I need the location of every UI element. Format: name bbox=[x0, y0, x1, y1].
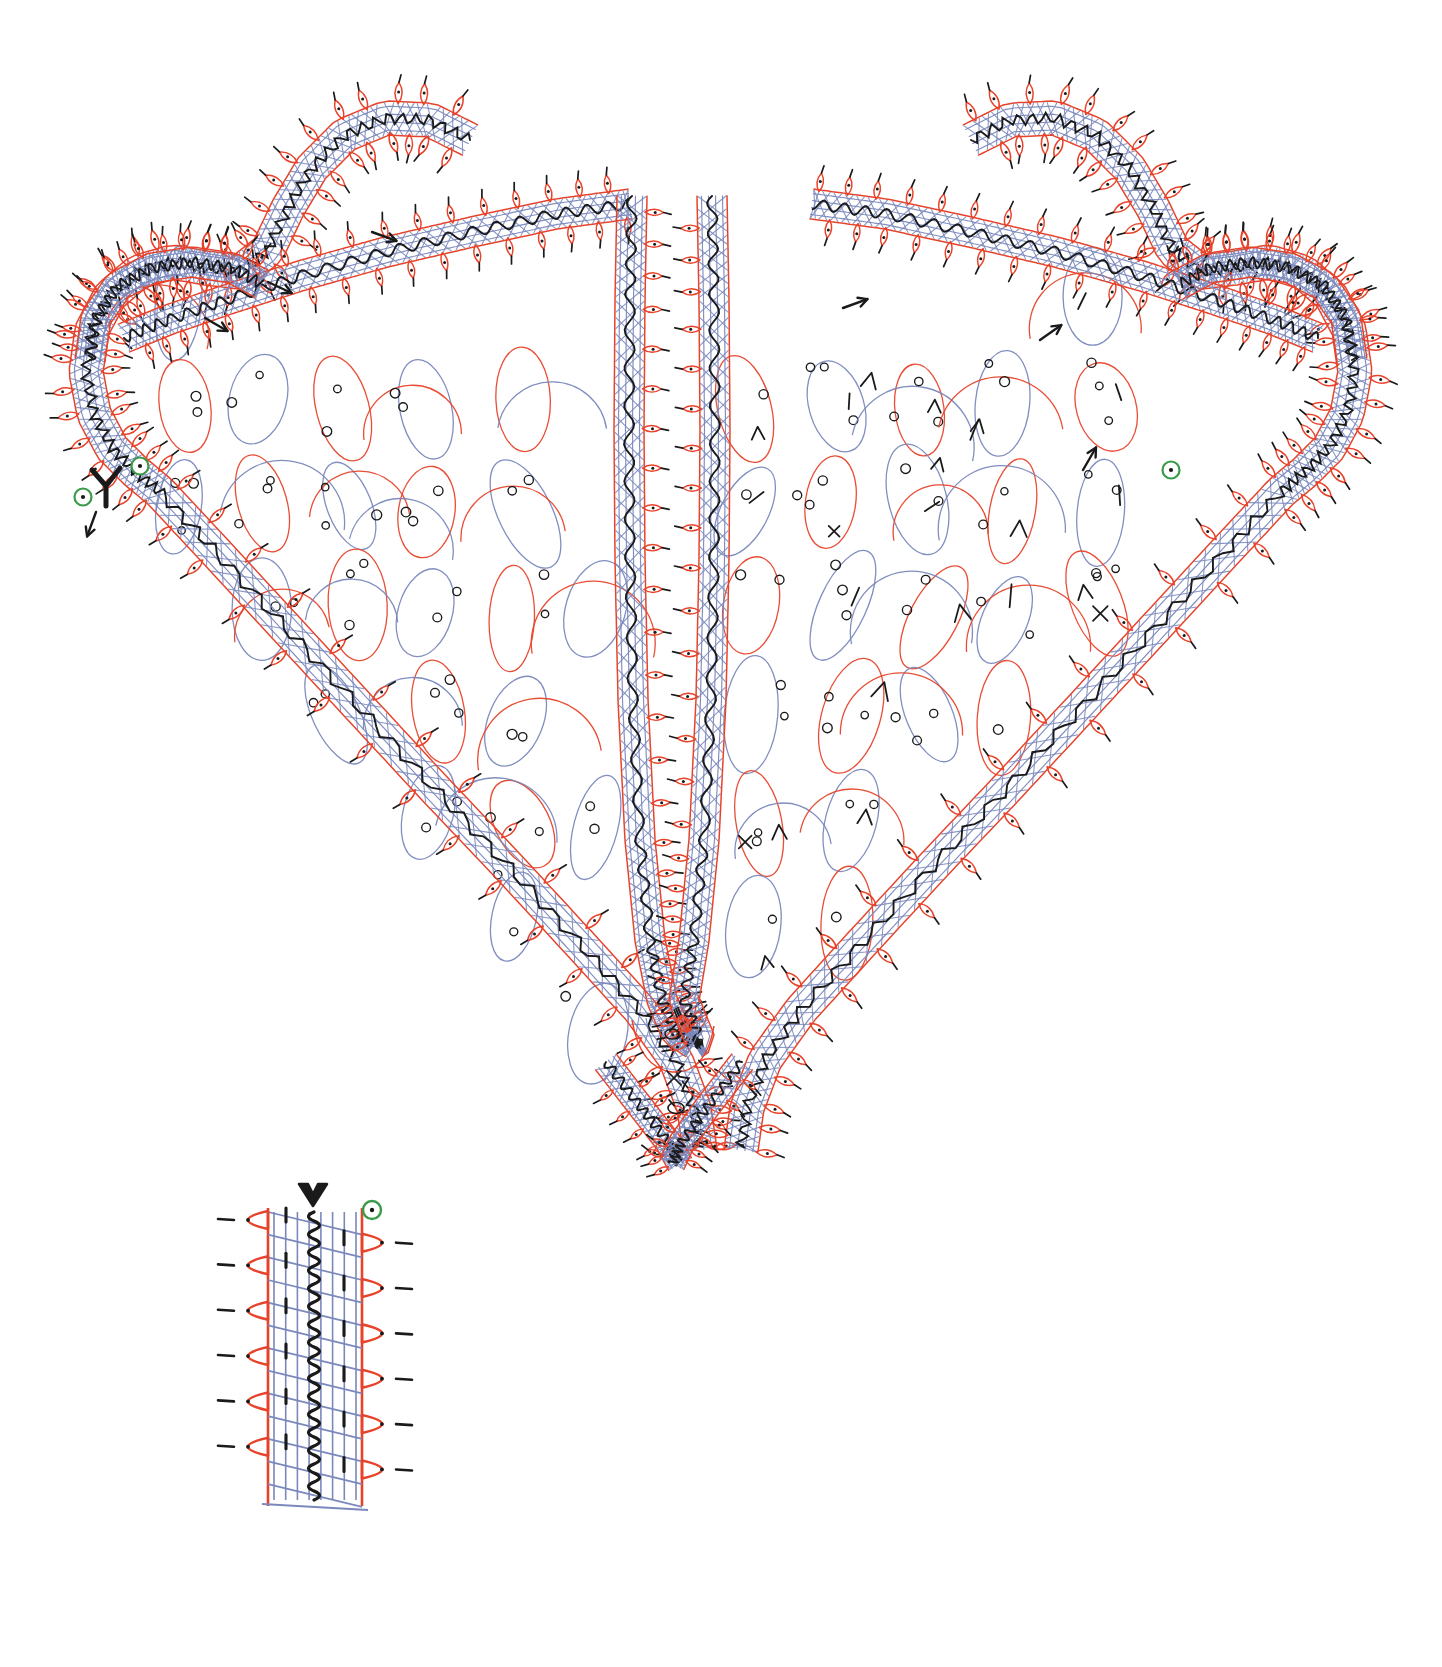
pin-dot bbox=[684, 737, 687, 740]
pin-dot bbox=[407, 144, 410, 147]
picot-tick bbox=[1223, 306, 1224, 314]
pin-dot bbox=[1268, 240, 1271, 243]
swatch-picot-tick-right bbox=[396, 1469, 412, 1470]
pin-dot bbox=[1346, 278, 1349, 281]
pin-dot bbox=[884, 955, 887, 958]
pin-dot bbox=[689, 566, 692, 569]
pin-dot bbox=[690, 368, 693, 371]
pin-dot bbox=[1159, 167, 1162, 170]
pin-dot bbox=[690, 407, 693, 410]
picot-tick bbox=[397, 153, 398, 161]
pin-dot bbox=[658, 1141, 661, 1144]
pin-dot bbox=[732, 1105, 735, 1108]
pin-dot bbox=[156, 297, 159, 300]
pin-dot bbox=[1340, 268, 1343, 271]
pin-dot bbox=[457, 103, 460, 106]
braid-crossing bbox=[630, 1024, 670, 1025]
pin-dot bbox=[607, 1013, 610, 1016]
pin-dot bbox=[671, 1033, 674, 1036]
pin-dot bbox=[180, 238, 183, 241]
picot-tick bbox=[670, 802, 678, 803]
pin-dot bbox=[629, 958, 632, 961]
pin-dot bbox=[482, 204, 485, 207]
pin-dot bbox=[1120, 206, 1123, 209]
pin-dot bbox=[1292, 516, 1295, 519]
pin-dot bbox=[1238, 496, 1241, 499]
pin-dot bbox=[1282, 348, 1285, 351]
picot-tick bbox=[1388, 345, 1396, 346]
pin-dot bbox=[179, 289, 182, 292]
pin-dot bbox=[246, 1263, 250, 1267]
pin-dot bbox=[652, 348, 655, 351]
pin-dot bbox=[300, 240, 303, 243]
pin-dot bbox=[1140, 250, 1143, 253]
pin-dot bbox=[1368, 317, 1371, 320]
pin-dot bbox=[705, 1141, 708, 1144]
picot-tick bbox=[672, 842, 680, 843]
pin-dot bbox=[392, 142, 395, 145]
pin-dot bbox=[704, 1061, 707, 1064]
pin-dot bbox=[193, 566, 196, 569]
pin-dot bbox=[605, 1094, 608, 1097]
pin-dot bbox=[968, 865, 971, 868]
pin-dot bbox=[165, 344, 168, 347]
pin-dot bbox=[1092, 168, 1095, 171]
pin-dot bbox=[201, 282, 204, 285]
pin-dot bbox=[547, 190, 550, 193]
pin-dot bbox=[671, 918, 674, 921]
pin-dot bbox=[1245, 334, 1248, 337]
pin-dot bbox=[656, 716, 659, 719]
pin-dot bbox=[183, 338, 186, 341]
pin-dot bbox=[416, 219, 419, 222]
pin-dot bbox=[682, 780, 685, 783]
pin-dot bbox=[572, 975, 575, 978]
pin-dot bbox=[449, 211, 452, 214]
picot-tick bbox=[1307, 343, 1315, 344]
pin-dot bbox=[165, 461, 168, 464]
start-marker-dot bbox=[138, 464, 142, 468]
pin-dot bbox=[688, 609, 691, 612]
pin-dot bbox=[185, 480, 188, 483]
pin-dot bbox=[668, 942, 671, 945]
picot-tick bbox=[600, 240, 601, 248]
pin-dot bbox=[370, 152, 373, 155]
picot-tick bbox=[210, 339, 211, 347]
pin-dot bbox=[380, 1286, 384, 1290]
pin-dot bbox=[1262, 289, 1265, 292]
pin-dot bbox=[749, 1084, 752, 1087]
pin-dot bbox=[137, 247, 140, 250]
pin-dot bbox=[533, 933, 536, 936]
pin-dot bbox=[692, 1090, 695, 1093]
pin-dot bbox=[915, 243, 918, 246]
pin-dot bbox=[1225, 240, 1228, 243]
pin-dot bbox=[1191, 230, 1194, 233]
pin-dot bbox=[162, 241, 165, 244]
pin-dot bbox=[246, 1218, 250, 1222]
pin-dot bbox=[1046, 273, 1049, 276]
pin-dot bbox=[1064, 92, 1067, 95]
pin-dot bbox=[676, 1046, 679, 1049]
pin-dot bbox=[325, 194, 328, 197]
pin-dot bbox=[1206, 530, 1209, 533]
picot-tick bbox=[1206, 227, 1207, 235]
pin-dot bbox=[973, 207, 976, 210]
pin-dot bbox=[708, 1069, 711, 1072]
pin-dot bbox=[653, 243, 656, 246]
pin-dot bbox=[679, 1108, 682, 1111]
pin-dot bbox=[1249, 286, 1252, 289]
pin-dot bbox=[186, 290, 189, 293]
pin-dot bbox=[661, 1009, 664, 1012]
pin-dot bbox=[312, 295, 315, 298]
pin-dot bbox=[818, 1029, 821, 1032]
pin-dot bbox=[1140, 680, 1143, 683]
pin-dot bbox=[246, 1400, 250, 1404]
pin-dot bbox=[124, 496, 127, 499]
pin-dot bbox=[951, 806, 954, 809]
pin-dot bbox=[651, 1072, 654, 1075]
pin-dot bbox=[172, 287, 175, 290]
pin-dot bbox=[247, 249, 250, 252]
pin-dot bbox=[1222, 326, 1225, 329]
swatch-picot-tick-left bbox=[218, 1446, 234, 1447]
pin-dot bbox=[380, 1468, 384, 1472]
pin-dot bbox=[926, 910, 929, 913]
